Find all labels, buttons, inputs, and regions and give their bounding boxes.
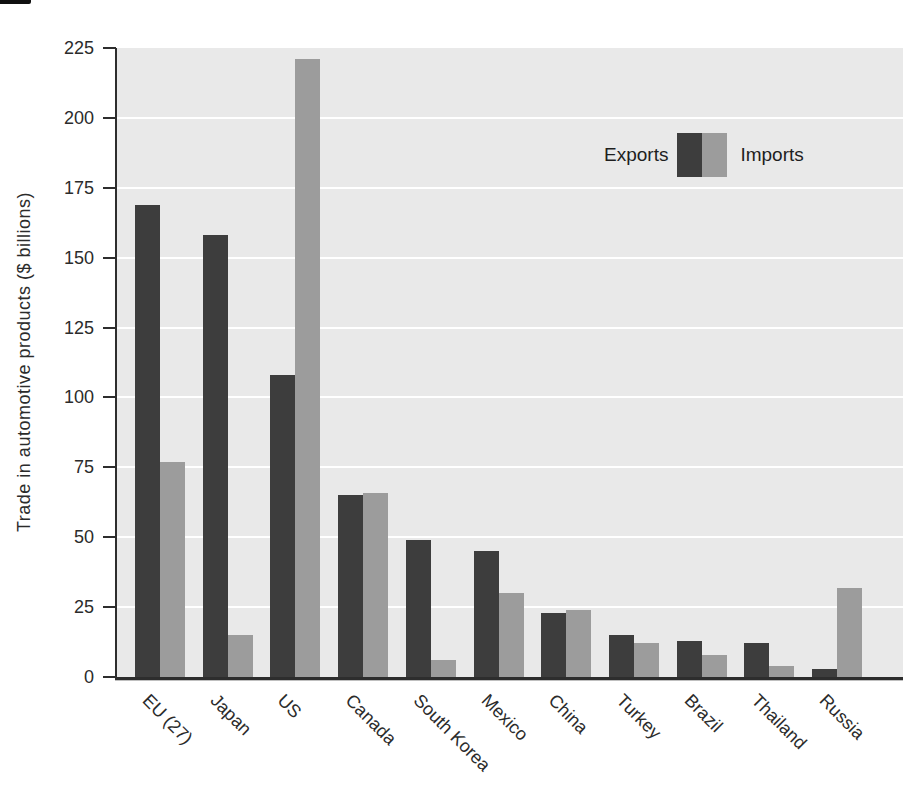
bar-imports-canada (363, 493, 388, 678)
x-tick-label-japan: Japan (207, 691, 254, 738)
x-tick-label-turkey: Turkey (613, 691, 664, 742)
bar-group-japan (203, 48, 253, 677)
y-tick-label-0: 0 (0, 668, 103, 686)
y-tick-mark-200 (103, 117, 116, 119)
x-tick-label-eu-27: EU (27) (139, 691, 196, 748)
bar-group-eu-27 (135, 48, 185, 677)
y-tick-label-50: 50 (0, 528, 103, 546)
y-tick-label-225: 225 (0, 39, 103, 57)
bar-group-us (270, 48, 320, 677)
bar-group-south-korea (406, 48, 456, 677)
y-tick-mark-50 (103, 536, 116, 538)
x-axis-line (115, 677, 903, 680)
bar-imports-china (566, 610, 591, 677)
y-tick-mark-100 (103, 396, 116, 398)
y-tick-label-175: 175 (0, 179, 103, 197)
legend: Exports Imports (604, 133, 804, 177)
x-tick-label-brazil: Brazil (681, 691, 726, 736)
bar-group-mexico (474, 48, 524, 677)
legend-imports-swatch (702, 133, 727, 177)
bar-exports-russia (812, 669, 837, 677)
bar-exports-china (541, 613, 566, 677)
y-tick-label-150: 150 (0, 249, 103, 267)
y-axis-title: Trade in automotive products ($ billions… (14, 192, 35, 532)
bar-exports-thailand (744, 643, 769, 677)
bar-imports-south-korea (431, 660, 456, 677)
y-axis-line (115, 48, 117, 680)
bar-imports-brazil (702, 655, 727, 677)
bar-imports-thailand (769, 666, 794, 677)
y-tick-label-125: 125 (0, 319, 103, 337)
bar-group-china (541, 48, 591, 677)
bar-exports-us (270, 375, 295, 677)
bar-imports-russia (837, 588, 862, 677)
y-tick-label-25: 25 (0, 598, 103, 616)
legend-imports-label: Imports (740, 144, 803, 166)
bar-exports-south-korea (406, 540, 431, 677)
y-tick-mark-75 (103, 466, 116, 468)
y-tick-label-100: 100 (0, 388, 103, 406)
x-tick-label-canada: Canada (342, 691, 399, 748)
x-tick-label-china: China (545, 691, 591, 737)
y-tick-label-75: 75 (0, 458, 103, 476)
bar-chart-figure: Trade in automotive products ($ billions… (0, 0, 913, 805)
bar-exports-eu-27 (135, 205, 160, 677)
bar-imports-turkey (634, 643, 659, 677)
y-tick-label-200: 200 (0, 109, 103, 127)
y-tick-mark-25 (103, 606, 116, 608)
y-tick-mark-125 (103, 327, 116, 329)
bar-exports-brazil (677, 641, 702, 677)
scan-artifact-mark (0, 0, 31, 4)
x-tick-label-russia: Russia (816, 691, 868, 743)
x-tick-label-us: US (275, 691, 305, 721)
x-tick-label-thailand: Thailand (749, 691, 811, 753)
bar-exports-mexico (474, 551, 499, 677)
x-tick-label-mexico: Mexico (478, 691, 531, 744)
y-tick-mark-150 (103, 257, 116, 259)
y-tick-mark-225 (103, 47, 116, 49)
bar-exports-turkey (609, 635, 634, 677)
bar-imports-mexico (499, 593, 524, 677)
y-tick-mark-175 (103, 187, 116, 189)
legend-exports-swatch (677, 133, 702, 177)
y-tick-mark-0 (103, 676, 116, 678)
bar-imports-japan (228, 635, 253, 677)
bar-imports-eu-27 (160, 462, 185, 677)
legend-exports-label: Exports (604, 144, 668, 166)
bar-group-canada (338, 48, 388, 677)
bar-imports-us (295, 59, 320, 677)
bar-exports-canada (338, 495, 363, 677)
bar-exports-japan (203, 235, 228, 677)
bar-group-russia (812, 48, 862, 677)
